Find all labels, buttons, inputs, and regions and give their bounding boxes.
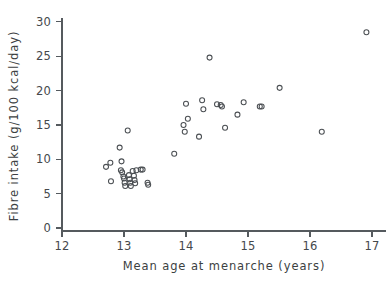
data-point [235, 112, 240, 117]
y-tick-label: 15 [36, 118, 51, 132]
y-axis-ticks: 051015202530 [36, 15, 62, 235]
data-point [181, 122, 186, 127]
data-point [364, 30, 369, 35]
axes [62, 18, 386, 231]
x-tick-label: 15 [240, 239, 255, 253]
y-axis-title: Fibre intake (g/100 kcal/day) [7, 31, 21, 222]
data-point [133, 181, 138, 186]
x-axis-title: Mean age at menarche (years) [123, 259, 326, 273]
x-tick-label: 17 [364, 239, 379, 253]
data-point [185, 116, 190, 121]
data-point [182, 129, 187, 134]
data-point [223, 125, 228, 130]
data-point [108, 179, 113, 184]
y-tick-label: 30 [36, 15, 51, 29]
data-point [241, 100, 246, 105]
data-point [123, 184, 128, 189]
data-point [119, 159, 124, 164]
y-tick-label: 0 [43, 221, 51, 235]
data-point [108, 160, 113, 165]
scatter-plot-figure: 051015202530 121314151617 Mean age at me… [0, 0, 392, 282]
data-point [319, 129, 324, 134]
data-point [200, 98, 205, 103]
data-point [125, 128, 130, 133]
x-tick-label: 14 [178, 239, 193, 253]
x-tick-label: 12 [54, 239, 69, 253]
y-tick-label: 10 [36, 152, 51, 166]
x-tick-label: 16 [302, 239, 317, 253]
data-points [104, 30, 369, 189]
plot-canvas: 051015202530 121314151617 Mean age at me… [0, 0, 392, 282]
y-tick-label: 5 [43, 187, 51, 201]
data-point [184, 101, 189, 106]
data-point [117, 145, 122, 150]
x-tick-label: 13 [116, 239, 131, 253]
data-point [201, 107, 206, 112]
data-point [219, 104, 224, 109]
data-point [104, 164, 109, 169]
data-point [172, 151, 177, 156]
data-point [277, 85, 282, 90]
y-tick-label: 25 [36, 49, 51, 63]
data-point [207, 55, 212, 60]
data-point [197, 134, 202, 139]
y-tick-label: 20 [36, 84, 51, 98]
x-axis-ticks: 121314151617 [54, 231, 379, 253]
